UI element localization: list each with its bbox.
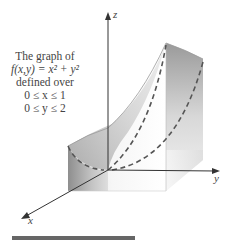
surface-plot-figure: z y x The graph of f(x,y) = x² + y² defi… bbox=[0, 0, 233, 242]
caption-line-3: defined over bbox=[0, 76, 90, 89]
caption-line-5: 0 ≤ y ≤ 2 bbox=[0, 102, 90, 115]
surface-plot-svg: z y x bbox=[0, 0, 233, 242]
caption-line-4: 0 ≤ x ≤ 1 bbox=[0, 89, 90, 102]
x-axis bbox=[26, 170, 108, 216]
graph-caption: The graph of f(x,y) = x² + y² defined ov… bbox=[0, 50, 90, 115]
z-axis-label: z bbox=[112, 8, 118, 20]
caption-line-2: f(x,y) = x² + y² bbox=[0, 63, 90, 76]
bottom-rule-bar bbox=[12, 236, 135, 240]
caption-line-1: The graph of bbox=[0, 50, 90, 63]
y-axis-label: y bbox=[213, 172, 219, 184]
x-axis-label: x bbox=[27, 214, 33, 226]
z-axis-arrowhead bbox=[105, 12, 111, 20]
